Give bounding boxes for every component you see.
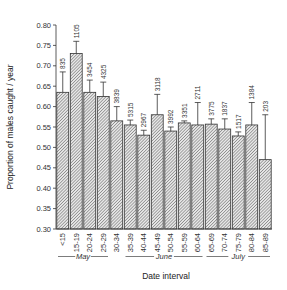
x-tick-label: 15-19 [72, 233, 81, 252]
month-label: July [231, 252, 247, 261]
sample-size-label: 3775 [208, 101, 215, 116]
y-tick-label: 0.50 [36, 143, 51, 152]
sample-size-label: 3351 [181, 103, 188, 118]
x-tick-label: 85-89 [261, 233, 270, 252]
bar: 1384 [246, 85, 258, 229]
sample-size-label: 3992 [167, 109, 174, 124]
y-tick-label: 0.65 [36, 82, 51, 91]
month-label: May [76, 252, 91, 261]
sample-size-label: 3118 [154, 77, 161, 91]
bar: 3454 [84, 62, 96, 229]
y-tick-label: 0.30 [36, 225, 51, 234]
x-tick-label: 50-54 [166, 233, 175, 252]
sample-size-label: 3839 [113, 89, 120, 104]
sample-size-label: 1384 [248, 85, 255, 100]
x-tick-label: 70-74 [220, 233, 229, 252]
x-tick-label: 80-84 [247, 233, 256, 252]
x-tick-label: 65-69 [207, 233, 216, 252]
y-tick-label: 0.70 [36, 61, 51, 70]
bar: 1517 [232, 114, 244, 229]
y-tick-label: 0.60 [36, 102, 51, 111]
bar: 3992 [165, 109, 177, 229]
bar: 3351 [178, 103, 190, 229]
sample-size-label: 1517 [235, 114, 242, 129]
x-tick-label: 35-39 [126, 233, 135, 252]
x-axis: <1515-1920-2425-2930-3435-3940-4445-4950… [56, 229, 272, 261]
sample-size-label: 5315 [127, 102, 134, 117]
x-tick-label: 40-44 [139, 233, 148, 252]
bar: 835 [57, 58, 69, 229]
sample-size-label: 2967 [140, 112, 147, 127]
y-tick-label: 0.55 [36, 123, 51, 132]
sample-size-label: 2711 [194, 85, 201, 99]
sample-size-label: 3454 [86, 62, 93, 77]
bar: 4325 [97, 64, 109, 229]
bar: 1837 [219, 101, 231, 229]
y-axis: 0.300.350.400.450.500.550.600.650.700.75… [36, 21, 56, 234]
sample-size-label: 835 [59, 58, 66, 69]
month-group: June [126, 252, 203, 261]
bar-chart: 0.300.350.400.450.500.550.600.650.700.75… [0, 0, 287, 290]
y-tick-label: 0.75 [36, 41, 51, 50]
bar: 203 [259, 101, 271, 229]
x-tick-label: 30-34 [112, 233, 121, 252]
sample-size-label: 203 [262, 101, 269, 112]
bar: 3775 [205, 101, 217, 229]
bar: 2711 [192, 85, 204, 229]
bar: 5315 [124, 102, 136, 229]
x-tick-label: 20-24 [85, 233, 94, 252]
bar: 2967 [138, 112, 150, 229]
bar: 1105 [70, 24, 82, 229]
month-group: May [58, 252, 108, 261]
bars: 8351105345443253839531529673118399233512… [57, 24, 271, 229]
x-axis-title: Date interval [142, 271, 190, 281]
y-tick-label: 0.40 [36, 184, 51, 193]
bar: 3839 [111, 89, 123, 229]
x-tick-label: 55-59 [180, 233, 189, 252]
month-group: July [207, 252, 271, 261]
x-tick-label: 60-64 [193, 233, 202, 252]
x-tick-label: 75-79 [234, 233, 243, 252]
y-tick-label: 0.80 [36, 21, 51, 30]
sample-size-label: 1105 [73, 24, 80, 38]
y-axis-title: Proportion of males caught / year [5, 64, 15, 189]
y-tick-label: 0.35 [36, 204, 51, 213]
sample-size-label: 4325 [100, 64, 107, 79]
x-tick-label: <15 [58, 233, 67, 246]
x-tick-label: 25-29 [99, 233, 108, 252]
sample-size-label: 1837 [221, 101, 228, 116]
month-label: June [155, 252, 172, 261]
y-tick-label: 0.45 [36, 163, 51, 172]
bar: 3118 [151, 77, 163, 229]
x-tick-label: 45-49 [153, 233, 162, 252]
